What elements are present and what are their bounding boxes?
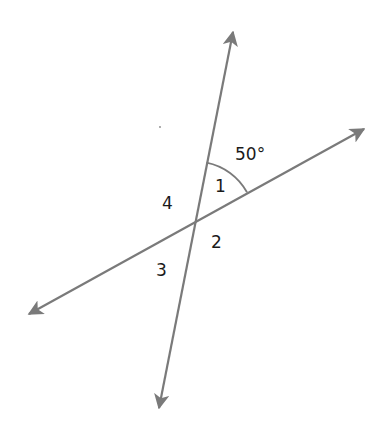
angle-4-label: 4 <box>162 193 173 213</box>
angle-3-label: 3 <box>156 260 167 280</box>
angle-measure-label: 50° <box>235 144 265 164</box>
angle-arc <box>207 163 248 193</box>
shallow-line <box>29 129 364 314</box>
steep-line <box>159 32 233 408</box>
stray-dot <box>159 126 161 128</box>
angle-1-label: 1 <box>215 176 226 196</box>
angle-2-label: 2 <box>211 232 222 252</box>
intersecting-lines-diagram: 50° 1 4 2 3 <box>0 0 381 440</box>
